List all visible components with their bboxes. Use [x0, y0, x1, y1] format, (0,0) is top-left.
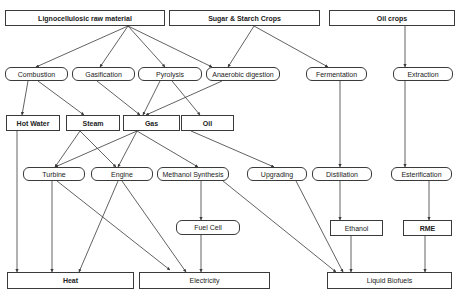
edge-gas-to-engine: [118, 131, 137, 167]
edge-gasification-to-gas: [97, 81, 140, 115]
node-rme: RME: [403, 220, 452, 236]
node-label: Pyrolysis: [156, 71, 184, 78]
edge-steam-to-engine: [80, 131, 116, 167]
node-heat: Heat: [7, 272, 134, 289]
node-gasification: Gasification: [72, 67, 135, 81]
node-hotwater: Hot Water: [6, 115, 60, 131]
node-ligno: Lignocellulosic raw material: [5, 10, 165, 26]
edge-sugar-to-fermentation: [254, 26, 328, 67]
node-label: Oil crops: [377, 15, 407, 22]
diagram-edges: [0, 0, 460, 297]
node-turbine: Turbine: [23, 167, 85, 181]
node-label: Sugar & Starch Crops: [208, 15, 281, 22]
edge-ligno-to-anaerobic: [128, 26, 212, 67]
node-label: Anaerobic digestion: [212, 71, 274, 78]
biomass-flow-diagram: Lignocellulosic raw materialSugar & Star…: [0, 0, 460, 297]
edge-sugar-to-anaerobic: [228, 26, 254, 67]
node-sugar: Sugar & Starch Crops: [169, 10, 320, 26]
node-label: Hot Water: [17, 120, 50, 127]
node-label: Fermentation: [316, 71, 357, 78]
node-label: Esterification: [401, 171, 441, 178]
node-label: Distillation: [326, 171, 358, 178]
node-fuelcell: Fuel Cell: [176, 220, 240, 235]
node-fermentation: Fermentation: [306, 67, 367, 81]
node-pyrolysis: Pyrolysis: [138, 67, 202, 81]
node-biofuels: Liquid Biofuels: [327, 272, 452, 289]
node-oilcrops: Oil crops: [329, 10, 455, 26]
edge-combustion-to-hotwater: [22, 81, 28, 115]
edge-gas-to-methanol: [137, 131, 198, 167]
node-extraction: Extraction: [393, 67, 453, 81]
node-combustion: Combustion: [5, 67, 68, 81]
node-oil: Oil: [181, 115, 234, 131]
node-distillation: Distillation: [312, 167, 372, 181]
node-anaerobic: Anaerobic digestion: [206, 67, 280, 81]
node-label: Upgrading: [261, 171, 293, 178]
node-label: Electricity: [190, 277, 220, 284]
node-steam: Steam: [66, 115, 120, 131]
node-ethanol: Ethanol: [330, 220, 383, 236]
node-label: RME: [420, 225, 436, 232]
node-electricity: Electricity: [139, 272, 270, 289]
node-label: Liquid Biofuels: [367, 277, 413, 284]
edge-ligno-to-pyrolysis: [128, 26, 165, 67]
node-engine: Engine: [91, 167, 153, 181]
node-label: Gas: [145, 120, 158, 127]
node-upgrading: Upgrading: [247, 167, 307, 181]
node-label: Engine: [111, 171, 133, 178]
node-label: Fuel Cell: [194, 224, 222, 231]
node-label: Extraction: [407, 71, 438, 78]
node-label: Heat: [63, 277, 78, 284]
node-label: Turbine: [42, 171, 65, 178]
node-label: Oil: [203, 120, 212, 127]
node-methanol: Methanol Synthesis: [157, 167, 229, 181]
node-label: Gasification: [85, 71, 122, 78]
node-gas: Gas: [123, 115, 180, 131]
node-label: Steam: [82, 120, 103, 127]
edge-pyrolysis-to-oil: [172, 81, 200, 115]
node-label: Lignocellulosic raw material: [38, 15, 132, 22]
edge-oil-to-upgrading: [191, 131, 274, 167]
node-label: Combustion: [18, 71, 55, 78]
node-label: Ethanol: [345, 225, 369, 232]
edge-engine-to-heat: [79, 181, 118, 272]
node-label: Methanol Synthesis: [162, 171, 223, 178]
node-esterification: Esterification: [391, 167, 452, 181]
edge-combustion-to-steam: [38, 81, 84, 115]
